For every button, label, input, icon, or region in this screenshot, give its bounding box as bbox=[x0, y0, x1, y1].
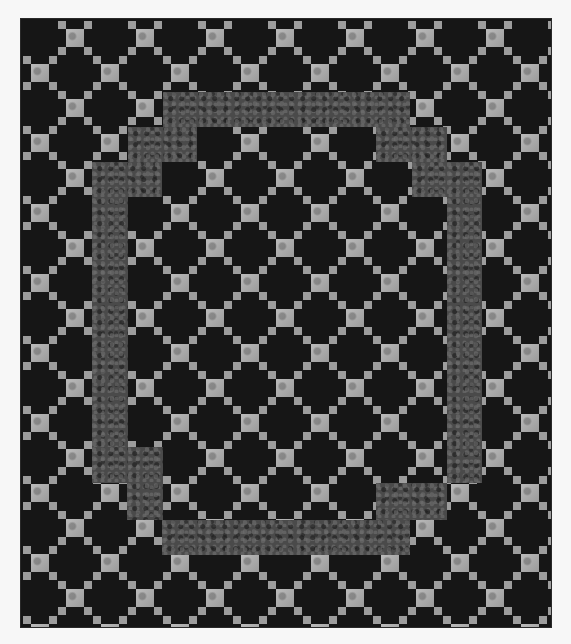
small-light-square bbox=[233, 572, 241, 580]
small-light-square bbox=[163, 292, 171, 300]
small-light-square bbox=[93, 82, 101, 90]
small-light-square bbox=[58, 21, 66, 29]
small-light-square bbox=[443, 572, 451, 580]
large-light-square bbox=[381, 554, 399, 572]
small-light-square bbox=[49, 222, 57, 230]
small-light-square bbox=[513, 196, 521, 204]
small-light-square bbox=[198, 607, 206, 615]
small-light-square bbox=[303, 82, 311, 90]
small-light-square bbox=[259, 266, 267, 274]
small-light-square bbox=[513, 222, 521, 230]
small-light-square bbox=[58, 231, 66, 239]
frame-segment bbox=[376, 127, 447, 162]
small-light-square bbox=[198, 467, 206, 475]
small-light-square bbox=[294, 47, 302, 55]
small-light-square bbox=[189, 222, 197, 230]
large-light-square bbox=[136, 309, 154, 327]
small-light-square bbox=[268, 257, 276, 265]
small-light-square bbox=[373, 82, 381, 90]
large-light-square bbox=[346, 589, 364, 607]
large-light-square bbox=[451, 554, 469, 572]
small-light-square bbox=[259, 196, 267, 204]
small-light-square bbox=[23, 56, 31, 64]
small-light-square bbox=[23, 432, 31, 440]
small-light-square bbox=[513, 546, 521, 554]
small-light-square bbox=[364, 231, 372, 239]
large-light-square bbox=[31, 204, 49, 222]
small-light-square bbox=[303, 616, 311, 624]
small-light-square bbox=[224, 467, 232, 475]
small-light-square bbox=[23, 502, 31, 510]
large-light-square bbox=[521, 624, 539, 627]
small-light-square bbox=[329, 476, 337, 484]
small-light-square bbox=[364, 161, 372, 169]
small-light-square bbox=[268, 607, 276, 615]
small-light-square bbox=[259, 152, 267, 160]
small-light-square bbox=[548, 301, 551, 309]
small-light-square bbox=[49, 336, 57, 344]
small-light-square bbox=[224, 371, 232, 379]
small-light-square bbox=[84, 47, 92, 55]
small-light-square bbox=[23, 546, 31, 554]
large-light-square bbox=[346, 379, 364, 397]
small-light-square bbox=[478, 117, 486, 125]
small-light-square bbox=[539, 432, 547, 440]
small-light-square bbox=[58, 537, 66, 545]
small-light-square bbox=[49, 406, 57, 414]
small-light-square bbox=[198, 441, 206, 449]
small-light-square bbox=[49, 292, 57, 300]
small-light-square bbox=[408, 47, 416, 55]
small-light-square bbox=[303, 572, 311, 580]
large-light-square bbox=[381, 64, 399, 82]
small-light-square bbox=[434, 21, 442, 29]
small-light-square bbox=[23, 476, 31, 484]
small-light-square bbox=[49, 362, 57, 370]
small-light-square bbox=[198, 371, 206, 379]
large-light-square bbox=[66, 519, 84, 537]
small-light-square bbox=[189, 82, 197, 90]
small-light-square bbox=[294, 161, 302, 169]
small-light-square bbox=[198, 187, 206, 195]
small-light-square bbox=[189, 476, 197, 484]
large-light-square bbox=[101, 134, 119, 152]
small-light-square bbox=[539, 572, 547, 580]
small-light-square bbox=[189, 266, 197, 274]
large-light-square bbox=[276, 379, 294, 397]
small-light-square bbox=[259, 616, 267, 624]
small-light-square bbox=[128, 301, 136, 309]
large-light-square bbox=[101, 554, 119, 572]
small-light-square bbox=[58, 511, 66, 519]
small-light-square bbox=[189, 502, 197, 510]
small-light-square bbox=[268, 397, 276, 405]
large-light-square bbox=[486, 589, 504, 607]
small-light-square bbox=[513, 292, 521, 300]
large-light-square bbox=[136, 99, 154, 117]
large-light-square bbox=[486, 169, 504, 187]
small-light-square bbox=[23, 362, 31, 370]
small-light-square bbox=[364, 327, 372, 335]
small-light-square bbox=[198, 231, 206, 239]
small-light-square bbox=[154, 581, 162, 589]
small-light-square bbox=[58, 581, 66, 589]
small-light-square bbox=[548, 257, 551, 265]
small-light-square bbox=[504, 511, 512, 519]
large-light-square bbox=[31, 64, 49, 82]
small-light-square bbox=[224, 21, 232, 29]
small-light-square bbox=[268, 187, 276, 195]
small-light-square bbox=[49, 196, 57, 204]
small-light-square bbox=[84, 607, 92, 615]
small-light-square bbox=[408, 607, 416, 615]
small-light-square bbox=[259, 56, 267, 64]
small-light-square bbox=[189, 616, 197, 624]
small-light-square bbox=[408, 441, 416, 449]
large-light-square bbox=[521, 134, 539, 152]
small-light-square bbox=[163, 502, 171, 510]
small-light-square bbox=[548, 371, 551, 379]
frame-segment bbox=[162, 520, 410, 555]
small-light-square bbox=[408, 467, 416, 475]
large-light-square bbox=[486, 309, 504, 327]
small-light-square bbox=[373, 432, 381, 440]
small-light-square bbox=[478, 581, 486, 589]
small-light-square bbox=[373, 266, 381, 274]
small-light-square bbox=[364, 47, 372, 55]
